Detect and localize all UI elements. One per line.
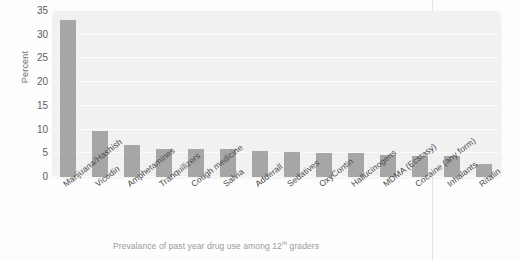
y-tick-label: 0 xyxy=(22,172,48,182)
y-tick-label: 25 xyxy=(22,53,48,63)
y-tick-label: 20 xyxy=(22,77,48,87)
y-tick-label: 30 xyxy=(22,30,48,40)
x-axis-tick-labels: Marijuana/HashishVicodinAmphetaminesTran… xyxy=(52,177,500,247)
bar-chart-figure: Percent 05101520253035 Marijuana/Hashish… xyxy=(0,0,522,260)
y-axis-title: Percent xyxy=(20,37,30,97)
figure-caption: Prevalance of past year drug use among 1… xyxy=(0,240,432,251)
bar xyxy=(60,20,76,177)
y-tick-label: 5 xyxy=(22,148,48,158)
y-tick-label: 35 xyxy=(22,6,48,16)
caption-suffix: graders xyxy=(287,241,319,251)
caption-prefix: Prevalance of past year drug use among 1… xyxy=(113,241,282,251)
y-tick-label: 10 xyxy=(22,125,48,135)
y-tick-label: 15 xyxy=(22,101,48,111)
